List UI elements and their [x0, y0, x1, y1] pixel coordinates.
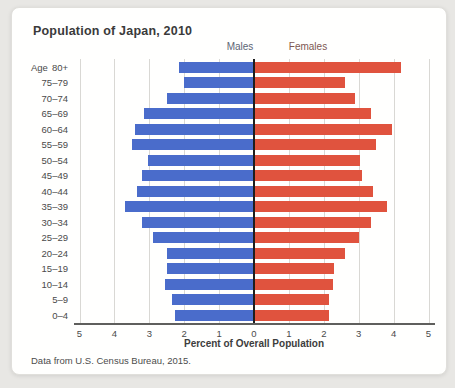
age-tick-label: 80+: [28, 62, 68, 73]
female-bar: [254, 279, 333, 290]
gridline: [394, 59, 395, 323]
female-bar: [254, 217, 371, 228]
male-bar: [135, 124, 254, 135]
female-bar: [254, 77, 345, 88]
male-bar: [125, 201, 254, 212]
age-tick-label: 0–4: [28, 310, 68, 321]
x-tick-label: 4: [384, 328, 404, 339]
female-bar: [254, 124, 392, 135]
female-bar: [254, 310, 329, 321]
age-tick-label: 35–39: [28, 201, 68, 212]
age-tick-label: 20–24: [28, 248, 68, 259]
male-bar: [132, 139, 254, 150]
age-tick-label: 30–34: [28, 217, 68, 228]
female-bar: [254, 139, 376, 150]
gridline: [429, 59, 430, 323]
source-note: Data from U.S. Census Bureau, 2015.: [31, 355, 191, 366]
female-bar: [254, 155, 360, 166]
male-bar: [148, 155, 254, 166]
male-bar: [175, 310, 254, 321]
male-bar: [137, 186, 254, 197]
age-tick-label: 55–59: [28, 139, 68, 150]
age-tick-label: 50–54: [28, 155, 68, 166]
x-tick-label: 5: [419, 328, 439, 339]
male-bar: [172, 294, 254, 305]
male-bar: [179, 62, 254, 73]
age-tick-label: 70–74: [28, 93, 68, 104]
gridline: [114, 59, 115, 323]
female-bar: [254, 186, 373, 197]
zero-baseline: [253, 59, 255, 323]
x-tick-label: 4: [104, 328, 124, 339]
female-bar: [254, 232, 359, 243]
male-bar: [144, 108, 254, 119]
female-bar: [254, 294, 329, 305]
age-tick-label: 65–69: [28, 108, 68, 119]
age-tick-label: 40–44: [28, 186, 68, 197]
male-bar: [165, 279, 254, 290]
chart-card: Population of Japan, 2010 Males Females …: [11, 7, 447, 375]
gridline: [80, 59, 81, 323]
female-bar: [254, 93, 355, 104]
age-tick-label: 45–49: [28, 170, 68, 181]
female-bar: [254, 263, 334, 274]
male-bar: [167, 263, 254, 274]
age-tick-label: 60–64: [28, 124, 68, 135]
male-bar: [167, 93, 254, 104]
age-tick-label: 15–19: [28, 263, 68, 274]
age-tick-label: 10–14: [28, 279, 68, 290]
x-axis-title: Percent of Overall Population: [154, 338, 354, 349]
female-bar: [254, 170, 362, 181]
x-axis-line: [74, 323, 435, 325]
female-bar: [254, 201, 387, 212]
female-bar: [254, 248, 345, 259]
age-tick-label: 75–79: [28, 77, 68, 88]
female-bar: [254, 108, 371, 119]
male-bar: [142, 217, 254, 228]
x-tick-label: 5: [70, 328, 90, 339]
age-tick-label: 25–29: [28, 232, 68, 243]
age-tick-label: 5–9: [28, 294, 68, 305]
plot-area: 80+75–7970–7465–6960–6455–5950–5445–4940…: [12, 8, 446, 374]
male-bar: [142, 170, 254, 181]
male-bar: [184, 77, 254, 88]
male-bar: [153, 232, 254, 243]
female-bar: [254, 62, 401, 73]
male-bar: [167, 248, 254, 259]
